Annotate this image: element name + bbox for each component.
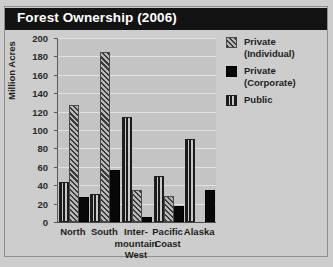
y-tick: 20 [54, 204, 57, 205]
chart-title-bar: Forest Ownership (2006) [5, 8, 327, 30]
y-tick-label: 20 [37, 198, 48, 209]
bar [174, 206, 184, 222]
bar [100, 52, 110, 222]
y-tick-label: 200 [32, 33, 48, 44]
legend-swatch [226, 37, 237, 48]
y-tick-label: 40 [37, 180, 48, 191]
y-tick: 100 [54, 130, 57, 131]
y-tick-label: 160 [32, 69, 48, 80]
y-tick-label: 60 [37, 161, 48, 172]
bar-group [90, 38, 120, 222]
x-axis-baseline [57, 222, 216, 223]
y-tick: 80 [54, 148, 57, 149]
y-tick: 120 [54, 112, 57, 113]
bar [110, 170, 120, 222]
plot-area: 020406080100120140160180200 [57, 38, 216, 222]
chart-title: Forest Ownership (2006) [17, 10, 177, 25]
y-tick-label: 120 [32, 106, 48, 117]
bar [59, 182, 69, 222]
legend-swatch [226, 66, 237, 77]
chart-figure: Forest Ownership (2006) Million Acres 02… [0, 0, 333, 267]
y-tick-label: 180 [32, 51, 48, 62]
bar [132, 190, 142, 222]
legend-item: Private (Individual) [226, 36, 326, 58]
legend-label: Private (Corporate) [244, 65, 296, 88]
legend-item: Private (Corporate) [226, 65, 326, 87]
bar [90, 194, 100, 222]
bar [154, 176, 164, 222]
y-tick: 140 [54, 93, 57, 94]
bar-group [122, 38, 152, 222]
y-tick-label: 100 [32, 125, 48, 136]
bar-group [59, 38, 89, 222]
bar-group [154, 38, 184, 222]
bar [205, 190, 215, 222]
bar-group [185, 38, 215, 222]
y-tick-label: 80 [37, 143, 48, 154]
bar [79, 197, 89, 222]
bar [69, 105, 79, 222]
y-tick-label: 0 [43, 217, 48, 228]
y-tick-label: 140 [32, 88, 48, 99]
y-tick: 180 [54, 56, 57, 57]
bar [185, 139, 195, 222]
y-tick: 60 [54, 167, 57, 168]
legend-item: Public [226, 94, 326, 116]
x-axis-label: Alaska [177, 226, 221, 238]
bar [164, 196, 174, 222]
y-axis-title: Million Acres [6, 41, 17, 100]
y-tick: 160 [54, 75, 57, 76]
legend-swatch [226, 95, 237, 106]
y-tick: 200 [54, 38, 57, 39]
bar [142, 217, 152, 222]
bar [122, 117, 132, 222]
legend-label: Private (Individual) [244, 36, 295, 59]
legend-label: Public [244, 94, 273, 106]
y-tick: 40 [54, 185, 57, 186]
chart-legend: Private (Individual)Private (Corporate)P… [226, 36, 326, 123]
